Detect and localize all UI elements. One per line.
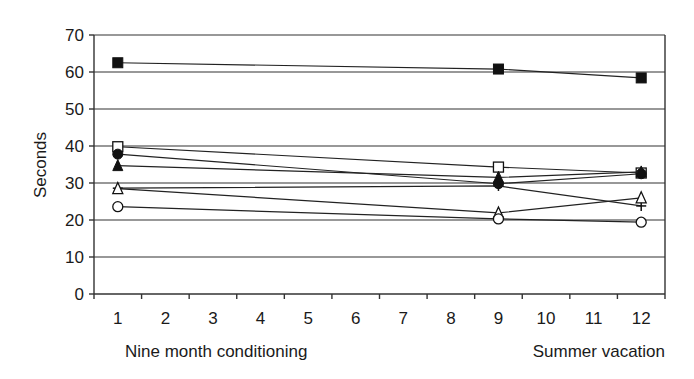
y-tick-label: 70 xyxy=(65,26,84,45)
line-chart: Seconds Nine month conditioning Summer v… xyxy=(0,0,694,379)
y-tick-label: 10 xyxy=(65,248,84,267)
filled-square-marker xyxy=(636,73,646,83)
x-tick-label: 2 xyxy=(161,309,170,328)
x-tick-label: 6 xyxy=(351,309,360,328)
x-tick-label: 3 xyxy=(208,309,217,328)
x-tick-label: 9 xyxy=(494,309,503,328)
filled-square-marker xyxy=(493,64,503,74)
x-tick-label: 12 xyxy=(632,309,651,328)
x-tick-label: 10 xyxy=(537,309,556,328)
open-circle-marker xyxy=(113,202,123,212)
y-tick-label: 40 xyxy=(65,137,84,156)
filled-square-marker xyxy=(113,58,123,68)
filled-triangle-marker xyxy=(113,160,123,171)
y-tick-label: 0 xyxy=(75,285,84,304)
y-tick-label: 50 xyxy=(65,100,84,119)
open-circle-marker xyxy=(493,214,503,224)
gridlines xyxy=(94,35,665,257)
data-series xyxy=(113,58,646,227)
axis-labels: Seconds Nine month conditioning Summer v… xyxy=(31,26,665,361)
series-line xyxy=(118,186,641,206)
series-line xyxy=(118,154,641,184)
y-tick-label: 60 xyxy=(65,63,84,82)
open-circle-marker xyxy=(636,217,646,227)
x-axis-title-left: Nine month conditioning xyxy=(125,342,307,361)
y-axis-title: Seconds xyxy=(31,132,50,198)
x-tick-label: 11 xyxy=(585,309,603,328)
y-tick-label: 20 xyxy=(65,211,84,230)
series-line xyxy=(118,63,641,78)
open-triangle-marker xyxy=(636,192,646,203)
x-tick-label: 1 xyxy=(113,309,122,328)
x-tick-label: 5 xyxy=(303,309,312,328)
y-tick-label: 30 xyxy=(65,174,84,193)
x-axis-title-right: Summer vacation xyxy=(533,342,665,361)
filled-circle-marker xyxy=(113,149,123,159)
x-tick-label: 8 xyxy=(446,309,455,328)
x-tick-label: 4 xyxy=(256,309,265,328)
series-dash xyxy=(113,181,646,211)
series-line xyxy=(118,166,641,178)
series-filled-square xyxy=(113,58,646,83)
x-tick-label: 7 xyxy=(399,309,408,328)
